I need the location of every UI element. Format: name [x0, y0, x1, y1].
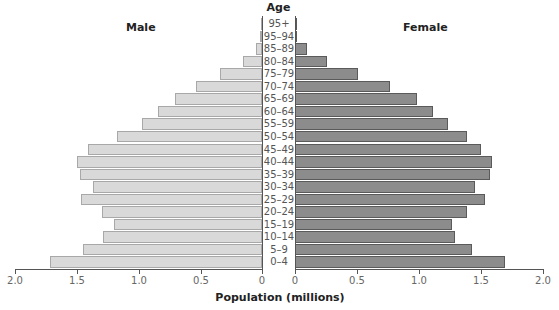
male-bar [83, 244, 262, 256]
female-bar [295, 43, 307, 55]
female-bar [295, 244, 472, 256]
x-tick-label: 0 [247, 275, 277, 286]
age-group-label: 75–79 [262, 68, 296, 80]
x-tick [201, 270, 202, 274]
x-tick [481, 270, 482, 274]
x-tick-label: 1.5 [466, 275, 496, 286]
age-group-label: 10–14 [262, 231, 296, 243]
age-group-label: 50–54 [262, 131, 296, 143]
female-bar [295, 231, 455, 243]
x-tick-label: 1.5 [62, 275, 92, 286]
male-bar [243, 56, 262, 68]
male-bar [102, 206, 262, 218]
male-bar [220, 68, 262, 80]
age-group-label: 95–94 [262, 31, 296, 43]
male-bar [103, 231, 262, 243]
female-bar [295, 106, 433, 118]
female-bar [295, 56, 327, 68]
age-group-label: 5–9 [262, 244, 296, 256]
male-bar [81, 194, 262, 206]
female-bar [295, 169, 490, 181]
age-group-label: 55–59 [262, 118, 296, 130]
x-tick [77, 270, 78, 274]
x-tick-label: 0 [280, 275, 310, 286]
male-bar [142, 118, 262, 130]
female-bar [295, 81, 390, 93]
x-axis-label: Population (millions) [180, 291, 380, 304]
age-group-label: 30–34 [262, 181, 296, 193]
male-bar [158, 106, 262, 118]
female-bar [295, 68, 358, 80]
male-title: Male [126, 21, 156, 34]
male-bar [114, 219, 262, 231]
age-group-label: 95+ [262, 18, 296, 30]
x-tick-label: 1.0 [124, 275, 154, 286]
female-bar [295, 156, 492, 168]
male-bar [88, 144, 262, 156]
age-group-label: 40–44 [262, 156, 296, 168]
age-group-label: 20–24 [262, 206, 296, 218]
female-bar [295, 131, 467, 143]
male-bar [93, 181, 262, 193]
male-bar [77, 156, 262, 168]
age-group-label: 35–39 [262, 169, 296, 181]
female-bar [295, 206, 467, 218]
male-baseline [262, 16, 263, 270]
female-bar [295, 181, 475, 193]
age-group-label: 60–64 [262, 106, 296, 118]
age-group-label: 25–29 [262, 194, 296, 206]
x-tick [139, 270, 140, 274]
x-tick-label: 0.5 [186, 275, 216, 286]
x-tick-label: 0.5 [342, 275, 372, 286]
female-title: Female [403, 21, 448, 34]
age-group-label: 15–19 [262, 219, 296, 231]
age-group-label: 80–84 [262, 56, 296, 68]
x-tick [295, 270, 296, 274]
age-axis-title: Age [262, 1, 295, 14]
male-bar [80, 169, 262, 181]
female-bar [295, 118, 448, 130]
male-bar [175, 93, 262, 105]
age-group-label: 85–89 [262, 43, 296, 55]
x-tick [262, 270, 263, 274]
male-bar [196, 81, 262, 93]
male-bar [50, 256, 262, 268]
x-tick [419, 270, 420, 274]
age-group-label: 45–49 [262, 144, 296, 156]
x-tick [15, 270, 16, 274]
x-tick [543, 270, 544, 274]
x-tick-label: 2.0 [528, 275, 558, 286]
male-bar [117, 131, 262, 143]
age-group-label: 70–74 [262, 81, 296, 93]
age-group-label: 0–4 [262, 256, 296, 268]
female-bar [295, 194, 485, 206]
female-bar [295, 93, 417, 105]
female-bar [295, 256, 505, 268]
female-baseline [295, 16, 296, 270]
female-bar [295, 219, 452, 231]
female-bar [295, 144, 481, 156]
x-tick [357, 270, 358, 274]
x-tick-label: 1.0 [404, 275, 434, 286]
age-group-label: 65–69 [262, 93, 296, 105]
x-tick-label: 2.0 [0, 275, 30, 286]
